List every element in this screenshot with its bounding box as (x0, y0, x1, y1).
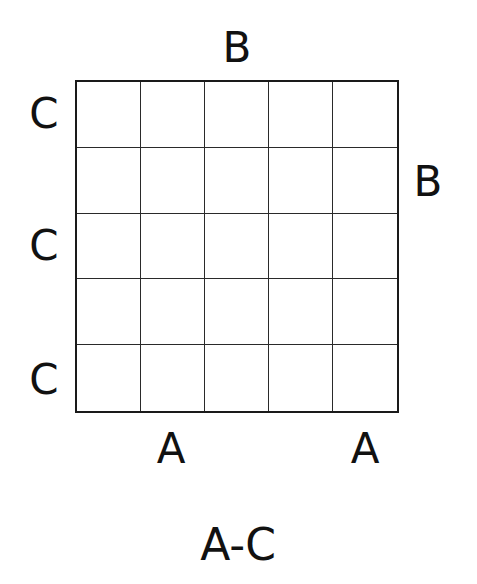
grid-cell-r2c4[interactable] (269, 148, 333, 214)
clue-right-row2: B (403, 161, 453, 203)
grid-cell-r1c4[interactable] (269, 82, 333, 148)
puzzle-grid (75, 80, 399, 413)
grid-cell-r5c2[interactable] (141, 345, 205, 411)
grid-cell-r5c5[interactable] (333, 345, 397, 411)
grid-cell-r2c2[interactable] (141, 148, 205, 214)
grid-cell-r1c5[interactable] (333, 82, 397, 148)
grid-cell-r4c1[interactable] (77, 279, 141, 345)
grid-cell-r5c4[interactable] (269, 345, 333, 411)
grid-cell-r5c3[interactable] (205, 345, 269, 411)
letter-range-label: A-C (200, 523, 276, 567)
grid-cell-r3c2[interactable] (141, 214, 205, 280)
clue-left-row1: C (19, 93, 69, 135)
grid-cell-r2c3[interactable] (205, 148, 269, 214)
grid-cell-r3c5[interactable] (333, 214, 397, 280)
grid-cell-r5c1[interactable] (77, 345, 141, 411)
grid-cell-r4c5[interactable] (333, 279, 397, 345)
grid-cell-r3c4[interactable] (269, 214, 333, 280)
grid-cell-r1c2[interactable] (141, 82, 205, 148)
grid-cell-r3c3[interactable] (205, 214, 269, 280)
grid-cell-r2c1[interactable] (77, 148, 141, 214)
clue-left-row5: C (19, 359, 69, 401)
clue-top-col3: B (212, 27, 262, 69)
grid-cell-r1c3[interactable] (205, 82, 269, 148)
grid-cell-r3c1[interactable] (77, 214, 141, 280)
grid-cell-r4c2[interactable] (141, 279, 205, 345)
clue-left-row3: C (19, 225, 69, 267)
grid-cell-r2c5[interactable] (333, 148, 397, 214)
clue-bottom-col5: A (340, 428, 390, 470)
grid-cell-r1c1[interactable] (77, 82, 141, 148)
grid-cell-r4c3[interactable] (205, 279, 269, 345)
grid-cell-r4c4[interactable] (269, 279, 333, 345)
clue-bottom-col2: A (146, 428, 196, 470)
